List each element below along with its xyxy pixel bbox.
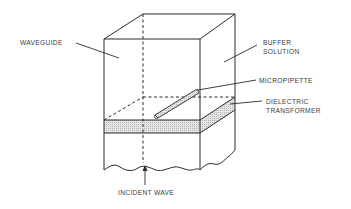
- label-dielectric-line1: DIELECTRIC: [266, 98, 309, 105]
- label-micropipette: MICROPIPETTE: [259, 77, 313, 84]
- waveguide-diagram: WAVEGUIDE BUFFER SOLUTION MICROPIPETTE D…: [0, 0, 351, 209]
- hidden-edges: [104, 14, 235, 163]
- label-buffer-line1: BUFFER: [263, 39, 291, 46]
- label-waveguide: WAVEGUIDE: [20, 39, 63, 46]
- waveguide-box: [104, 14, 235, 171]
- micropipette: [154, 89, 199, 118]
- dielectric-transformer-layer: [104, 97, 235, 133]
- label-incident-wave: INCIDENT WAVE: [118, 189, 174, 196]
- label-buffer-line2: SOLUTION: [263, 48, 300, 55]
- incident-wave-arrow: [143, 165, 148, 185]
- label-dielectric-line2: TRANSFORMER: [266, 107, 321, 114]
